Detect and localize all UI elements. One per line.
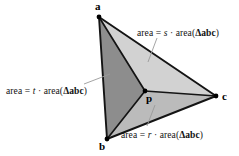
vertex-dot-c [214, 94, 219, 99]
region-r-label-prefix: area [121, 130, 137, 140]
region-s-label-func-close: ) [216, 28, 219, 38]
region-r-label-func-open: area( [160, 130, 179, 140]
region-s-label-func-open: area( [176, 28, 195, 38]
vertex-dot-b [105, 137, 110, 142]
region-t-label-func-close: ) [84, 86, 87, 96]
region-s-label-equals: = [156, 28, 161, 38]
region-s-label-prefix: area [137, 28, 153, 38]
vertex-label-p: p [146, 92, 152, 104]
region-t-label-func-open: area( [44, 86, 63, 96]
triangle-area-figure: area = s · area(Δabc) area = t · area(Δa… [0, 0, 239, 156]
region-r-label-operator: · [154, 130, 157, 140]
region-t-label: area = t · area(Δabc) [6, 86, 87, 96]
region-s-label-coefficient: s [164, 28, 168, 38]
region-r-label: area = r · area(Δabc) [121, 130, 203, 140]
vertex-label-c: c [222, 90, 227, 102]
vertex-label-b: b [99, 140, 105, 152]
region-s-label-triangle-name: abc [201, 28, 216, 38]
region-r-label-func-close: ) [200, 130, 203, 140]
region-t-label-coefficient: t [33, 86, 36, 96]
region-s-label-operator: · [170, 28, 173, 38]
region-r-label-triangle-name: abc [185, 130, 200, 140]
figure-canvas [0, 0, 239, 156]
region-t-label-triangle-name: abc [69, 86, 84, 96]
region-t-label-operator: · [38, 86, 41, 96]
vertex-dot-a [97, 15, 102, 20]
region-r-label-equals: = [140, 130, 145, 140]
region-r-label-coefficient: r [148, 130, 152, 140]
region-s-label: area = s · area(Δabc) [137, 28, 219, 38]
vertex-label-a: a [95, 0, 101, 12]
region-t-label-prefix: area [6, 86, 22, 96]
region-t-label-equals: = [25, 86, 30, 96]
